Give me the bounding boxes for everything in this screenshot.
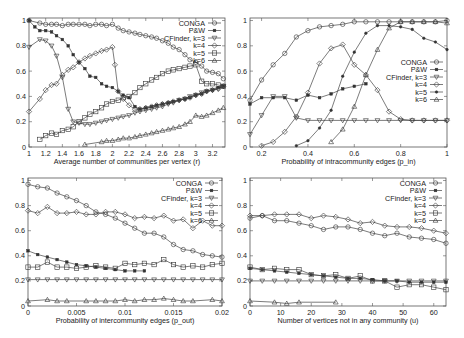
data-point xyxy=(45,278,50,282)
legend-marker xyxy=(435,91,438,94)
data-point xyxy=(399,26,402,29)
data-point xyxy=(161,296,166,300)
series-line xyxy=(250,268,446,282)
data-point xyxy=(200,278,205,282)
x-axis-label: Probability of intracommunity edges (p_i… xyxy=(281,157,415,166)
data-point xyxy=(111,86,114,89)
data-point xyxy=(143,270,146,273)
y-tick-label: 0.4 xyxy=(15,251,25,260)
x-tick-label: 1.2 xyxy=(41,149,51,158)
data-point xyxy=(307,139,310,142)
data-point xyxy=(318,127,321,130)
data-point xyxy=(365,32,368,35)
data-point xyxy=(306,119,311,123)
data-point xyxy=(190,278,195,282)
legend: CONGAP&WCFinder, k=3k=4k=5k=6 xyxy=(164,19,221,66)
data-point xyxy=(341,75,344,78)
x-axis-label: Probability of intercommunity edges (p_o… xyxy=(56,316,195,325)
data-point xyxy=(93,278,98,282)
series-k-6 xyxy=(248,299,339,306)
data-point xyxy=(295,144,298,147)
series-p-w xyxy=(27,249,146,272)
data-point xyxy=(44,29,47,32)
y-tick-label: 0.2 xyxy=(237,276,247,285)
data-point xyxy=(74,278,79,282)
y-tick-label: 0.8 xyxy=(15,201,25,210)
data-point xyxy=(104,138,109,142)
data-point xyxy=(56,258,59,261)
y-tick-label: 0.8 xyxy=(237,41,247,50)
y-tick-label: 0.6 xyxy=(15,226,25,235)
data-point xyxy=(39,29,42,32)
data-point xyxy=(161,278,166,282)
series-line xyxy=(40,65,224,140)
y-tick-label: 1 xyxy=(243,16,247,25)
chart-communities-per-vertex: 00.20.40.60.8111.21.41.61.822.22.42.62.8… xyxy=(16,16,226,166)
y-tick-label: 0.2 xyxy=(16,117,26,126)
data-point xyxy=(142,278,147,282)
data-point xyxy=(28,19,31,22)
data-point xyxy=(152,278,157,282)
data-point xyxy=(123,278,128,282)
series-k-6 xyxy=(26,296,225,303)
y-tick-label: 0 xyxy=(22,143,26,152)
chart-vertices-not-in-community: 00.20.40.60.810102030405060Number of ver… xyxy=(237,176,449,325)
data-point xyxy=(82,122,87,126)
x-axis-label: Average number of communities per vertex… xyxy=(54,157,200,166)
y-tick-label: 0.2 xyxy=(15,276,25,285)
legend: CONGAP&WCFinder, k=3k=4k=5k=6 xyxy=(386,58,443,105)
y-tick-label: 1 xyxy=(243,176,247,185)
y-tick-label: 0.6 xyxy=(237,67,247,76)
data-point xyxy=(64,278,69,282)
data-point xyxy=(376,24,379,27)
data-point xyxy=(75,263,78,266)
legend-marker xyxy=(213,29,216,32)
data-point xyxy=(353,85,356,88)
legend-label: k=6 xyxy=(193,56,205,65)
data-point xyxy=(34,26,37,29)
series-line xyxy=(250,267,446,290)
data-point xyxy=(27,249,30,252)
data-point xyxy=(61,38,64,41)
series-k-6 xyxy=(329,19,450,143)
series-line xyxy=(85,108,223,145)
series-k-6 xyxy=(82,105,225,146)
x-tick-label: 3.2 xyxy=(207,149,217,158)
data-point xyxy=(285,271,288,274)
data-point xyxy=(210,278,215,282)
data-point xyxy=(318,96,321,99)
data-point xyxy=(387,119,392,123)
data-point xyxy=(72,53,75,56)
data-point xyxy=(89,75,92,78)
data-point xyxy=(100,82,103,85)
x-tick-label: 1 xyxy=(27,149,31,158)
y-tick-label: 0.8 xyxy=(16,41,26,50)
x-axis-label: Number of vertices not in any community … xyxy=(277,316,418,325)
y-tick-label: 1 xyxy=(21,176,25,185)
data-point xyxy=(84,278,89,282)
data-point xyxy=(423,37,426,40)
data-point xyxy=(87,122,92,126)
data-point xyxy=(273,270,276,273)
data-point xyxy=(363,119,368,123)
y-tick-label: 0.4 xyxy=(16,92,26,101)
data-point xyxy=(340,119,345,123)
data-point xyxy=(334,276,337,279)
data-point xyxy=(249,103,252,106)
legend-label: k=6 xyxy=(415,95,427,104)
legend-marker xyxy=(434,189,437,192)
legend: CONGAP&WCFinder, k=3k=4k=5k=6 xyxy=(385,179,442,226)
legend-marker xyxy=(210,189,213,192)
series-line xyxy=(250,301,336,304)
data-point xyxy=(105,85,108,88)
data-point xyxy=(66,261,69,264)
data-point xyxy=(50,31,53,34)
y-tick-label: 0.4 xyxy=(237,92,247,101)
data-point xyxy=(341,88,344,91)
data-point xyxy=(434,41,437,44)
data-point xyxy=(55,34,58,37)
y-tick-label: 0.8 xyxy=(237,201,247,210)
data-point xyxy=(36,253,39,256)
x-tick-label: 0.2 xyxy=(257,149,267,158)
data-point xyxy=(46,256,49,259)
